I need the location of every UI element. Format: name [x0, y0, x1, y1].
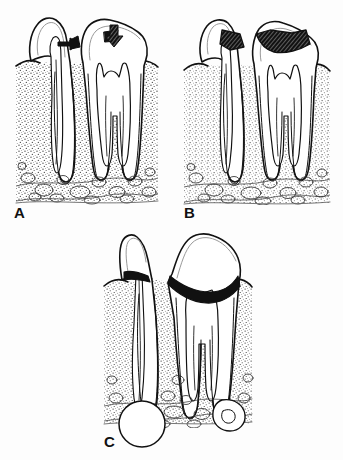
periapical-lesion-round	[119, 401, 165, 447]
figure-root: A	[0, 0, 343, 460]
panel-label-b: B	[184, 205, 195, 220]
panel-label-a: A	[14, 205, 25, 220]
panel-a	[0, 0, 172, 230]
panel-c	[82, 228, 272, 460]
panel-b	[170, 0, 343, 230]
panel-label-c: C	[104, 434, 115, 449]
